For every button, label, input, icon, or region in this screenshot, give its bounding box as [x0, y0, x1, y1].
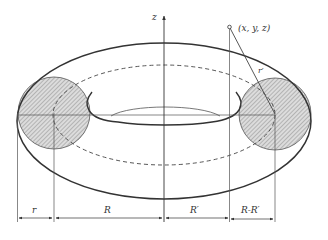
dim-R-minus-R-prime-label: R-R′	[240, 205, 260, 215]
dim-R-label: R	[103, 205, 111, 215]
dimension-lines	[19, 218, 273, 219]
z-axis-label: z	[151, 12, 157, 22]
torus-diagram: z (x, y, z) r′ r R R′ R-R′	[0, 0, 328, 240]
point-label: (x, y, z)	[238, 23, 271, 33]
dim-R-prime-label: R′	[189, 205, 199, 215]
point-marker	[228, 25, 232, 29]
r-prime-label: r′	[258, 66, 264, 75]
dim-r-label: r	[32, 205, 37, 215]
